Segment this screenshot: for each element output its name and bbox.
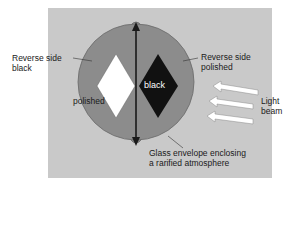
label-reverse-side-black: Reverse side black: [12, 54, 62, 73]
label-polished: polished: [73, 97, 105, 107]
label-light-beam: Light beam: [261, 97, 282, 116]
label-glass-envelope: Glass envelope enclosing a rarified atmo…: [149, 149, 246, 168]
label-black: black: [144, 81, 165, 91]
leader-glass-envelope: [168, 136, 183, 148]
label-reverse-side-polished: Reverse side polished: [201, 53, 251, 72]
light-beam-arrows: [207, 81, 258, 124]
